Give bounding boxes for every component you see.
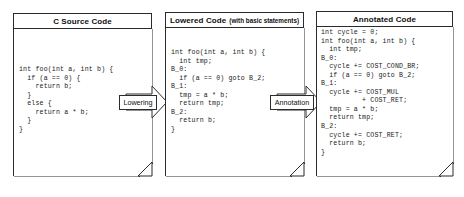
arrow-lowering-label: Lowering [119, 95, 157, 110]
page-fold-icon-c-source-code [137, 161, 153, 177]
code-block-annotated-code: int cycle = 0; int foo(int a, int b) { i… [317, 27, 453, 157]
arrow-annotation-label-text: Annotation [275, 98, 309, 107]
page-fold-icon-lowered-code [289, 161, 305, 177]
diagram-canvas: C Source Code int foo(int a, int b) { if… [0, 0, 464, 197]
arrow-lowering: Lowering [126, 86, 168, 118]
code-block-lowered-code: int foo(int a, int b) { int tmp; B_0: if… [166, 28, 304, 134]
panel-header-annotated-code: Annotated Code [317, 12, 453, 27]
panel-title-c-source-code: C Source Code [53, 17, 112, 26]
panel-header-lowered-code: Lowered Code (with basic statements) [166, 13, 304, 28]
panel-title-annotated-code: Annotated Code [353, 15, 416, 24]
panel-subtitle-lowered-code: (with basic statements) [229, 17, 299, 24]
panel-annotated-code: Annotated Code int cycle = 0; int foo(in… [316, 11, 453, 176]
code-block-c-source-code: int foo(int a, int b) { if (a == 0) { re… [14, 29, 152, 134]
arrow-annotation-label: Annotation [270, 95, 314, 110]
panel-header-c-source-code: C Source Code [14, 14, 152, 29]
page-fold-icon-annotated-code [438, 161, 454, 177]
panel-title-lowered-code: Lowered Code [170, 16, 226, 25]
arrow-lowering-label-text: Lowering [123, 98, 152, 107]
